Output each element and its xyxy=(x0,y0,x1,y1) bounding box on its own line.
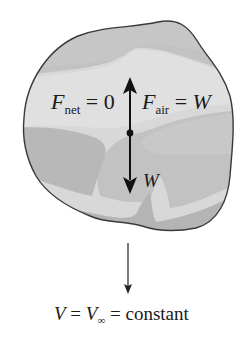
velocity-caption: V = V∞ = constant xyxy=(54,304,189,323)
air-force-rhs: W xyxy=(193,89,211,114)
velocity-lhs: V xyxy=(54,303,66,324)
net-force-relation: = 0 xyxy=(80,89,114,114)
air-force-subscript: air xyxy=(155,102,169,117)
velocity-eq1: = xyxy=(66,303,86,324)
velocity-eq2: = constant xyxy=(105,303,189,324)
net-force-symbol: F xyxy=(51,89,64,114)
velocity-arrow xyxy=(124,243,132,294)
diagram-canvas xyxy=(0,0,244,340)
center-of-mass-dot xyxy=(127,130,134,137)
air-force-symbol: F xyxy=(142,89,155,114)
air-force-relation: = xyxy=(169,89,192,114)
velocity-mid: V xyxy=(86,303,98,324)
air-force-label: Fair = W xyxy=(142,91,211,113)
net-force-subscript: net xyxy=(64,102,80,117)
weight-label: W xyxy=(143,171,159,190)
net-force-label: Fnet = 0 xyxy=(51,91,115,113)
velocity-infinity-subscript: ∞ xyxy=(97,314,105,326)
